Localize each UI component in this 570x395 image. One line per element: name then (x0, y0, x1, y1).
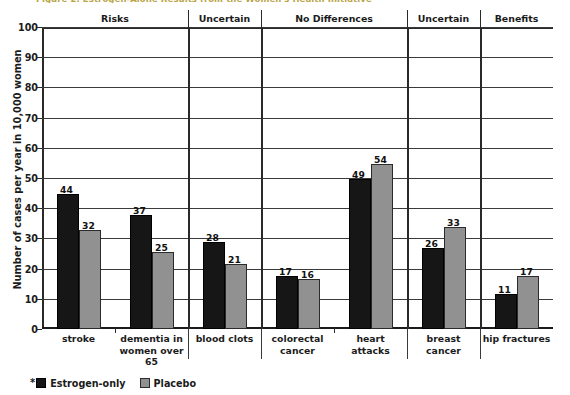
category-band-label-3: Uncertain (407, 10, 480, 26)
y-tick-0 (37, 329, 42, 330)
x-label-group-separator (407, 329, 408, 359)
gridline-50 (42, 178, 553, 179)
bar-value-label: 11 (498, 284, 511, 295)
y-tick-label-90: 90 (25, 52, 38, 63)
y-tick-label-40: 40 (25, 203, 38, 214)
y-tick-label-30: 30 (25, 233, 38, 244)
x-axis-tick-labels: strokedementia inwomen over65blood clots… (42, 333, 553, 369)
x-tick-label-4: heart attacks (336, 333, 405, 356)
y-tick-10 (37, 299, 42, 300)
gridline-30 (42, 238, 553, 239)
category-band-label-2: No Differences (261, 10, 407, 26)
bar-value-label: 37 (133, 205, 146, 216)
gridline-40 (42, 208, 553, 209)
y-tick-label-10: 10 (25, 293, 38, 304)
x-label-group-separator (188, 329, 189, 359)
category-band-label-4: Benefits (480, 10, 553, 26)
y-tick-label-50: 50 (25, 173, 38, 184)
y-tick-label-70: 70 (25, 112, 38, 123)
y-axis-title-wrap: Number of cases per year in 10,000 women (0, 27, 14, 329)
bar-value-label: 49 (352, 169, 365, 180)
bar-hip-fractures-estrogen-only (495, 294, 517, 329)
y-tick-40 (37, 208, 42, 209)
legend-item-estrogen-only: Estrogen-only (36, 378, 125, 389)
y-tick-90 (37, 57, 42, 58)
bar-stroke-placebo (79, 230, 101, 329)
bar-chart: Figure 2. Estrogen-Alone Results from th… (0, 0, 570, 395)
gridline-80 (42, 87, 553, 88)
bar-blood-clots-estrogen-only (203, 242, 225, 329)
x-tick-label-0: stroke (44, 333, 113, 345)
bar-blood-clots-placebo (225, 264, 247, 329)
category-band-row: RisksUncertainNo DifferencesUncertainBen… (42, 10, 553, 26)
bar-value-label: 25 (155, 242, 168, 253)
group-separator (261, 27, 263, 329)
y-tick-100 (37, 27, 42, 28)
y-tick-label-60: 60 (25, 142, 38, 153)
bar-value-label: 44 (60, 184, 73, 195)
gridline-100 (42, 27, 553, 28)
x-tick-label-5: breast cancer (409, 333, 478, 356)
y-tick-30 (37, 238, 42, 239)
y-tick-60 (37, 148, 42, 149)
x-tick-mark (115, 328, 116, 333)
category-band-separator (188, 10, 189, 27)
group-separator (407, 27, 409, 329)
bar-value-label: 54 (374, 154, 387, 165)
gridline-90 (42, 57, 553, 58)
bar-value-label: 32 (82, 220, 95, 231)
bar-heart-attacks-placebo (371, 164, 393, 329)
x-label-group-separator (261, 329, 262, 359)
y-tick-50 (37, 178, 42, 179)
bar-value-label: 17 (520, 266, 533, 277)
gridline-20 (42, 269, 553, 270)
legend-asterisk: * (30, 378, 35, 388)
bar-stroke-estrogen-only (57, 194, 79, 329)
x-tick-mark (334, 328, 335, 333)
y-axis-title: Number of cases per year in 10,000 women (12, 20, 23, 320)
y-tick-label-80: 80 (25, 82, 38, 93)
category-band-separator (480, 10, 481, 27)
bar-dementia-in-women-over-65-placebo (152, 252, 174, 330)
bar-dementia-in-women-over-65-estrogen-only (130, 215, 152, 329)
x-tick-label-2: blood clots (190, 333, 259, 345)
legend-label-estrogen-only: Estrogen-only (50, 378, 125, 389)
figure-title-clipped: Figure 2. Estrogen-Alone Results from th… (36, 0, 536, 3)
bar-value-label: 16 (301, 269, 314, 280)
category-band-label-1: Uncertain (188, 10, 261, 26)
x-tick-label-3: colorectalcancer (263, 333, 332, 356)
category-band-separator (261, 10, 262, 27)
category-band-label-0: Risks (42, 10, 188, 26)
bar-breast-cancer-placebo (444, 227, 466, 329)
bar-breast-cancer-estrogen-only (422, 248, 444, 329)
bar-hip-fractures-placebo (517, 276, 539, 329)
bar-heart-attacks-estrogen-only (349, 179, 371, 329)
group-separator (188, 27, 190, 329)
bar-colorectal-cancer-placebo (298, 279, 320, 329)
y-tick-20 (37, 269, 42, 270)
legend-swatch-placebo (140, 378, 150, 388)
legend-label-placebo: Placebo (154, 378, 196, 389)
group-separator (480, 27, 482, 329)
gridline-60 (42, 148, 553, 149)
legend-swatch-estrogen-only (36, 378, 46, 388)
x-label-group-separator (480, 329, 481, 359)
bar-value-label: 17 (279, 266, 292, 277)
y-tick-70 (37, 118, 42, 119)
bar-colorectal-cancer-estrogen-only (276, 276, 298, 329)
bar-value-label: 26 (425, 238, 438, 249)
y-tick-label-20: 20 (25, 263, 38, 274)
x-tick-label-6: hip fractures (482, 333, 551, 345)
x-tick-label-1: dementia inwomen over65 (117, 333, 186, 368)
plot-area: 4432372528211716495426331117 (42, 27, 553, 329)
category-band-separator (407, 10, 408, 27)
bar-value-label: 21 (228, 254, 241, 265)
bar-value-label: 28 (206, 232, 219, 243)
gridline-70 (42, 118, 553, 119)
legend-item-placebo: Placebo (140, 378, 196, 389)
y-tick-80 (37, 87, 42, 88)
bar-value-label: 33 (447, 217, 460, 228)
chart-legend: * Estrogen-only Placebo (30, 376, 210, 390)
